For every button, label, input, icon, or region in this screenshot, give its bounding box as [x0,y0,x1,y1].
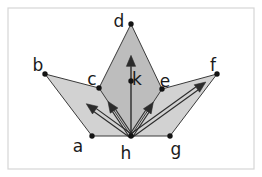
vertex-label-f: f [210,55,217,75]
vertex-label-a: a [73,136,83,156]
vertex-dot-c [96,85,101,90]
vertex-dot-g [167,133,172,138]
vertex-label-k: k [132,69,142,89]
vertex-dot-d [128,21,133,26]
vertex-dot-a [89,133,94,138]
vector-diagram: abcdefghk [0,0,262,177]
figure-container: abcdefghk [0,0,262,177]
vertex-label-b: b [33,55,44,75]
vertex-dot-h [128,133,133,138]
vertex-label-d: d [114,11,125,31]
vertex-label-h: h [121,143,132,163]
vertex-label-e: e [160,71,170,91]
vertex-label-c: c [87,69,96,89]
vertex-label-g: g [171,139,182,159]
